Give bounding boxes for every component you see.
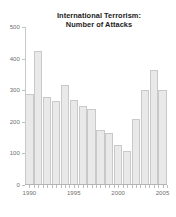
bar <box>61 85 69 184</box>
y-axis-tick <box>22 27 25 28</box>
x-axis-label: 2005 <box>156 190 170 196</box>
y-axis-tick <box>22 185 25 186</box>
bar <box>25 94 33 184</box>
x-axis-tick-minor <box>167 185 168 188</box>
bar <box>52 101 60 184</box>
x-axis-tick-minor <box>140 185 141 188</box>
x-axis-tick-minor <box>123 185 124 188</box>
bar <box>114 145 122 184</box>
chart-title-line-1: International Terrorism: <box>26 11 172 20</box>
x-axis-tick <box>92 185 93 188</box>
x-axis-tick <box>136 185 137 188</box>
x-axis-tick-minor <box>96 185 97 188</box>
bar <box>158 90 166 184</box>
bar <box>141 90 149 184</box>
x-axis-label: 1990 <box>23 190 37 196</box>
bar <box>132 119 140 184</box>
bar <box>150 70 158 184</box>
chart-figure: International Terrorism: Number of Attac… <box>0 0 176 217</box>
x-axis-tick <box>163 185 164 188</box>
x-axis-tick-minor <box>105 185 106 188</box>
x-axis-tick <box>118 185 119 188</box>
x-axis-tick <box>47 185 48 188</box>
bar <box>123 151 131 184</box>
bar <box>105 133 113 185</box>
y-axis-tick <box>22 59 25 60</box>
x-axis-tick-minor <box>52 185 53 188</box>
x-axis-tick <box>74 185 75 188</box>
x-axis-tick <box>56 185 57 188</box>
bar <box>34 51 42 184</box>
y-axis-label: 500 <box>10 24 20 30</box>
bar <box>96 130 104 184</box>
x-axis-tick-minor <box>132 185 133 188</box>
x-axis-tick-minor <box>61 185 62 188</box>
x-axis-tick-minor <box>158 185 159 188</box>
bar <box>87 109 95 184</box>
x-axis-tick <box>145 185 146 188</box>
bar <box>43 97 51 184</box>
x-axis-tick-minor <box>114 185 115 188</box>
plot-area: 0100200300400500 1990199520002005 <box>25 27 167 185</box>
bar <box>70 100 78 184</box>
x-axis-tick-minor <box>34 185 35 188</box>
x-axis-tick <box>83 185 84 188</box>
x-axis-tick-minor <box>78 185 79 188</box>
bar <box>79 106 87 184</box>
y-axis-label: 100 <box>10 150 20 156</box>
x-axis-tick <box>154 185 155 188</box>
y-axis-label: 0 <box>17 182 20 188</box>
x-axis-tick <box>127 185 128 188</box>
x-axis-tick-minor <box>87 185 88 188</box>
x-axis-tick-minor <box>69 185 70 188</box>
x-axis-tick-minor <box>43 185 44 188</box>
x-axis-tick-minor <box>149 185 150 188</box>
x-axis-tick <box>109 185 110 188</box>
y-axis-label: 200 <box>10 119 20 125</box>
y-axis-label: 400 <box>10 56 20 62</box>
y-axis-tick <box>22 90 25 91</box>
x-axis-tick <box>65 185 66 188</box>
x-axis-tick <box>100 185 101 188</box>
x-axis-label: 2000 <box>111 190 125 196</box>
y-axis-label: 300 <box>10 87 20 93</box>
x-axis-label: 1995 <box>67 190 81 196</box>
x-axis-tick <box>29 185 30 188</box>
x-axis-tick <box>38 185 39 188</box>
